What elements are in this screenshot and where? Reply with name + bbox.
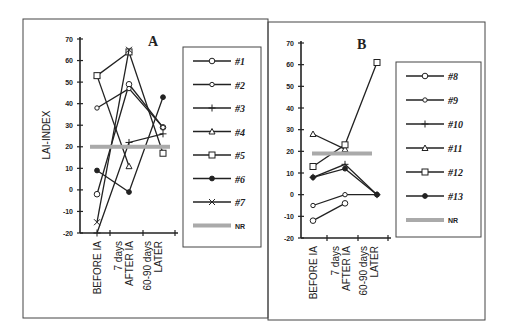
x-category-label: 7 days [330,246,341,275]
series-line-n11 [313,134,345,149]
filled-circle-marker-icon [95,168,100,173]
y-tick-label: 60 [65,57,73,64]
legend-label: #13 [447,191,463,202]
x-category-label: BEFORE IA [308,246,319,300]
legend-label: #3 [234,103,245,114]
square-marker-icon [310,164,316,170]
legend-box [183,47,261,247]
y-tick-label: 50 [65,79,73,86]
y-tick-label: 10 [286,170,294,177]
y-tick-label: -20 [284,235,294,242]
y-tick-label: 0 [69,186,73,193]
legend-label: #2 [234,80,245,91]
legend-label: #6 [234,174,245,185]
y-tick-label: 40 [65,100,73,107]
nr-band [90,145,170,149]
small-circle-marker-icon [311,203,315,207]
square-marker-icon [342,142,348,148]
legend-label: NR [235,223,245,230]
y-tick-label: 10 [65,165,73,172]
series-line-n8 [313,203,345,220]
legend-filled-circle-icon [210,176,215,181]
legend-small-circle-icon [210,82,214,86]
y-tick-label: 50 [286,83,294,90]
y-tick-label: 20 [65,143,73,150]
plus-marker-icon [160,130,167,137]
legend-label: #12 [447,167,463,178]
triangle-marker-icon [126,163,132,169]
nr-band [312,152,372,156]
legend-label: #8 [447,71,458,82]
triangle-marker-icon [310,131,316,137]
y-tick-label: -10 [63,208,73,215]
small-circle-marker-icon [343,192,347,196]
series-line-n7 [97,50,129,222]
y-tick-label: 70 [286,40,294,47]
series-line-n6 [97,97,163,192]
legend-square-icon [209,152,215,158]
legend-label: #1 [234,56,245,67]
small-circle-marker-icon [127,86,131,90]
series-line-n13 [313,169,377,195]
legend-label: NR [448,217,458,224]
legend-box [396,62,481,237]
small-circle-marker-icon [161,125,165,129]
small-circle-marker-icon [95,106,99,110]
y-tick-label: -20 [63,230,73,237]
filled-circle-marker-icon [161,95,166,100]
legend-label: #4 [234,127,245,138]
panel-a: 706050403020100-10-20BEFORE IA7 daysAFTE… [63,36,261,295]
y-tick-label: 30 [286,126,294,133]
lai-index-figure: 706050403020100-10-20BEFORE IA7 daysAFTE… [0,0,517,336]
x-category-label: 60-90 days [358,246,369,295]
series-line-n2 [97,89,163,128]
legend-label: #9 [447,95,458,106]
square-marker-icon [374,60,380,66]
y-tick-label: -10 [284,213,294,220]
filled-circle-marker-icon [311,175,316,180]
x-category-label: 7 days [113,241,124,270]
square-marker-icon [94,73,100,79]
x-category-label: LATER [153,241,164,273]
legend-small-circle-icon [423,98,427,102]
y-tick-label: 20 [286,148,294,155]
legend-label: #5 [234,150,245,161]
legend-label: #10 [447,119,463,130]
legend-square-icon [422,169,428,175]
panel-b: 706050403020100-10-20BEFORE IA7 daysAFTE… [284,40,481,300]
y-tick-label: 40 [286,105,294,112]
filled-circle-marker-icon [375,192,380,197]
y-axis-label: LAI-INDEX [41,110,52,159]
x-category-label: LATER [369,246,380,278]
filled-circle-marker-icon [343,166,348,171]
legend-label: #11 [447,143,462,154]
legend-nr-swatch [406,218,444,222]
x-category-label: BEFORE IA [92,241,103,295]
legend-label: #7 [234,197,246,208]
y-tick-label: 30 [65,122,73,129]
legend-circle-icon [422,73,428,79]
plus-marker-icon [94,230,101,237]
y-tick-label: 60 [286,61,294,68]
panel-a-title: A [148,34,159,49]
circle-marker-icon [94,191,100,197]
x-category-label: AFTER IA [124,241,135,286]
series-line-n4 [97,76,129,167]
filled-circle-marker-icon [127,190,132,195]
x-category-label: 60-90 days [142,241,153,290]
y-tick-label: 70 [65,36,73,43]
x-category-label: AFTER IA [341,246,352,291]
legend-filled-circle-icon [423,194,428,199]
y-tick-label: 0 [290,191,294,198]
square-marker-icon [160,150,166,156]
legend-circle-icon [209,58,215,64]
panel-b-title: B [357,37,366,52]
circle-marker-icon [342,201,348,207]
legend-nr-swatch [193,224,231,228]
circle-marker-icon [310,218,316,224]
